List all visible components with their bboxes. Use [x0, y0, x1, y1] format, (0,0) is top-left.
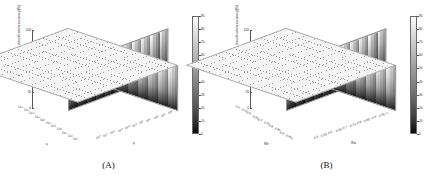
x-axis-label-a: c — [46, 142, 48, 146]
plot-area-a: Average classification accuracy(%) 0 20 … — [0, 0, 217, 156]
plot-area-b: Average classification accuracy(%) 0 20 … — [218, 0, 435, 156]
colorbar-tick-mark — [199, 95, 201, 96]
colorbar-ticks-b: 0 10 20 30 40 50 60 70 80 90 — [410, 16, 424, 134]
z-axis-tick-rail-a: 10-6 10-5 10-4 10-3 10-2 10-1 100 101 10… — [96, 136, 186, 176]
colorbar-tick: 20 — [419, 106, 422, 110]
z-axis-label-a: γ — [133, 141, 135, 145]
colorbar-tick: 40 — [419, 80, 422, 84]
colorbar-tick: 70 — [419, 40, 422, 44]
colorbar-ticks-a: 0 10 20 30 40 50 60 70 80 90 — [192, 16, 206, 134]
colorbar-tick: 60 — [419, 53, 422, 57]
colorbar-tick: 60 — [201, 53, 204, 57]
panel-caption-a: (A) — [0, 160, 217, 170]
x-tick: 101 — [45, 120, 50, 125]
figure-container: Average classification accuracy(%) 0 20 … — [0, 0, 435, 184]
colorbar-tick: 0 — [419, 132, 421, 136]
colorbar-tick: 40 — [201, 80, 204, 84]
x-tick: 10-4 — [17, 104, 22, 109]
z-axis-label-b: Rw — [351, 141, 356, 145]
x-tick: 10-3 — [23, 107, 28, 112]
colorbar-tick-mark — [199, 55, 201, 56]
colorbar-tick-mark — [417, 42, 419, 43]
x-tick: 103 — [56, 127, 61, 132]
x-tick: 104 — [61, 130, 66, 135]
colorbar-tick-mark — [199, 108, 201, 109]
colorbar-tick-mark — [199, 16, 201, 17]
colorbar-tick-mark — [417, 121, 419, 122]
x-tick: 10-1 — [34, 114, 39, 119]
x-axis-label-b: Rb — [264, 142, 268, 146]
x-tick: 100 — [39, 117, 44, 122]
x-tick: 10-2 — [28, 111, 33, 116]
z-axis-tick-rail-b: 0.5 0.55 0.6 0.65 0.7 0.75 0.8 0.85 0.9 … — [314, 136, 404, 176]
z-tick: 10-3 — [117, 127, 122, 132]
z-tick: 0.5 — [313, 135, 318, 140]
z-tick: 10-5 — [103, 132, 108, 137]
colorbar-tick-mark — [199, 134, 201, 135]
colorbar-tick-mark — [417, 29, 419, 30]
x-tick: 0.5 — [235, 104, 241, 109]
x-tick: 106 — [72, 136, 77, 141]
colorbar-tick: 80 — [419, 27, 422, 31]
x-tick: 0.7 — [257, 117, 263, 122]
colorbar-tick-mark — [417, 68, 419, 69]
colorbar-tick: 30 — [419, 93, 422, 97]
z-tick: 101 — [146, 117, 151, 122]
colorbar-tick-mark — [417, 82, 419, 83]
colorbar-tick: 90 — [201, 14, 204, 18]
colorbar-tick-mark — [199, 82, 201, 83]
colorbar-tick: 80 — [201, 27, 204, 31]
colorbar-tick-mark — [199, 121, 201, 122]
colorbar-tick-mark — [199, 29, 201, 30]
colorbar-tick: 70 — [201, 40, 204, 44]
z-tick: 0.55 — [321, 132, 328, 138]
colorbar-tick: 90 — [419, 14, 422, 18]
colorbar-tick-mark — [417, 134, 419, 135]
z-tick: 102 — [153, 115, 158, 120]
colorbar-tick-mark — [417, 95, 419, 96]
panel-b: Average classification accuracy(%) 0 20 … — [218, 0, 435, 184]
panel-a: Average classification accuracy(%) 0 20 … — [0, 0, 217, 184]
colorbar-tick: 50 — [419, 66, 422, 70]
z-tick: 103 — [160, 112, 165, 117]
colorbar-tick-mark — [417, 55, 419, 56]
colorbar-tick: 20 — [201, 106, 204, 110]
x-axis-tick-rail-a: 10-4 10-3 10-2 10-1 100 101 102 103 104 … — [18, 104, 98, 144]
colorbar-tick: 0 — [201, 132, 203, 136]
colorbar-tick-mark — [199, 42, 201, 43]
x-tick: 102 — [50, 123, 55, 128]
x-tick: 1 — [290, 136, 293, 140]
x-tick: 0.8 — [268, 123, 274, 128]
colorbar-tick-mark — [417, 108, 419, 109]
z-tick: 10-6 — [95, 135, 100, 140]
colorbar-tick-mark — [417, 16, 419, 17]
x-tick: 105 — [67, 133, 72, 138]
x-tick: 0.6 — [246, 111, 252, 116]
colorbar-tick: 30 — [201, 93, 204, 97]
z-tick: 10-1 — [131, 122, 136, 127]
colorbar-tick: 10 — [419, 119, 422, 123]
colorbar-tick: 10 — [201, 119, 204, 123]
x-tick: 0.9 — [279, 130, 285, 135]
panel-caption-b: (B) — [218, 160, 435, 170]
x-axis-tick-rail-b: 0.5 0.55 0.6 0.65 0.7 0.75 0.8 0.85 0.9 … — [236, 104, 316, 144]
